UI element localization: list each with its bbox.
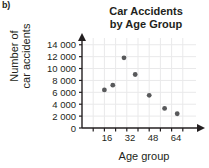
- data-point: [102, 88, 107, 93]
- data-point: [162, 106, 167, 111]
- plot-svg: [0, 0, 209, 168]
- data-point: [122, 55, 127, 60]
- axis-ticks: [79, 45, 183, 132]
- data-point: [133, 72, 138, 77]
- data-points: [102, 55, 180, 116]
- data-point: [175, 111, 180, 116]
- data-point: [110, 83, 115, 88]
- figure: b) Car Accidents by Age Group Number of …: [0, 0, 209, 168]
- data-point: [147, 93, 152, 98]
